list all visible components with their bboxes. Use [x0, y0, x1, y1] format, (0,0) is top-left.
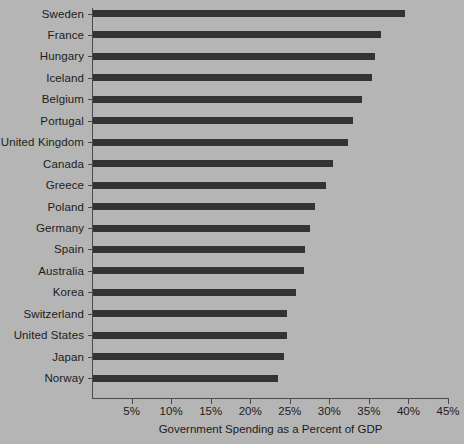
- y-axis-tick: [88, 164, 93, 165]
- x-axis-tick: [290, 399, 291, 404]
- y-axis-tick: [88, 121, 93, 122]
- y-axis-label: Germany: [0, 222, 84, 234]
- x-axis-tick-label: 20%: [230, 405, 270, 417]
- y-axis-tick: [88, 271, 93, 272]
- y-axis-tick: [88, 378, 93, 379]
- x-axis-tick: [250, 399, 251, 404]
- y-axis-line: [92, 8, 93, 399]
- y-axis-label: Poland: [0, 201, 84, 213]
- y-axis-label: Greece: [0, 179, 84, 191]
- x-axis-tick: [408, 399, 409, 404]
- y-axis-tick: [88, 185, 93, 186]
- y-axis-label: Japan: [0, 351, 84, 363]
- x-axis-tick-label: 40%: [388, 405, 428, 417]
- x-axis-tick-label: 30%: [309, 405, 349, 417]
- y-axis-tick: [88, 142, 93, 143]
- bar: [92, 117, 353, 124]
- x-axis-tick-label: 35%: [349, 405, 389, 417]
- x-axis-line: [92, 398, 449, 399]
- x-axis-tick: [448, 399, 449, 404]
- y-axis-label: Norway: [0, 372, 84, 384]
- y-axis-tick: [88, 249, 93, 250]
- y-axis-label: Sweden: [0, 8, 84, 20]
- y-axis-tick: [88, 228, 93, 229]
- y-axis-label: Korea: [0, 286, 84, 298]
- bar: [92, 353, 284, 360]
- x-axis-tick-label: 15%: [191, 405, 231, 417]
- bar: [92, 160, 333, 167]
- x-axis-tick: [132, 399, 133, 404]
- y-axis-tick: [88, 14, 93, 15]
- bar: [92, 139, 348, 146]
- y-axis-label: Australia: [0, 265, 84, 277]
- bar: [92, 53, 375, 60]
- y-axis-tick: [88, 314, 93, 315]
- x-axis-tick-label: 45%: [428, 405, 464, 417]
- x-axis-tick-label: 25%: [270, 405, 310, 417]
- y-axis-tick: [88, 99, 93, 100]
- x-axis-tick: [171, 399, 172, 404]
- bar: [92, 203, 315, 210]
- y-axis-label: United Kingdom: [0, 136, 84, 148]
- bar: [92, 332, 287, 339]
- y-axis-label: Portugal: [0, 115, 84, 127]
- x-axis-tick: [329, 399, 330, 404]
- x-axis-tick-label: 10%: [151, 405, 191, 417]
- y-axis-tick: [88, 357, 93, 358]
- bar: [92, 310, 287, 317]
- y-axis-label: Switzerland: [0, 308, 84, 320]
- y-axis-tick: [88, 56, 93, 57]
- plot-area: [92, 0, 458, 398]
- bar: [92, 31, 381, 38]
- y-axis-label: United States: [0, 329, 84, 341]
- y-axis-tick: [88, 78, 93, 79]
- bar: [92, 225, 310, 232]
- y-axis-tick: [88, 335, 93, 336]
- bar: [92, 267, 304, 274]
- y-axis-tick: [88, 207, 93, 208]
- y-axis-label: Hungary: [0, 50, 84, 62]
- y-axis-label: Spain: [0, 243, 84, 255]
- y-axis-tick: [88, 292, 93, 293]
- y-axis-label: Canada: [0, 158, 84, 170]
- bar: [92, 96, 362, 103]
- y-axis-label: Belgium: [0, 93, 84, 105]
- bar: [92, 375, 278, 382]
- bar: [92, 10, 405, 17]
- x-axis-title: Government Spending as a Percent of GDP: [92, 423, 449, 435]
- y-axis-label: France: [0, 29, 84, 41]
- y-axis-category-labels: SwedenFranceHungaryIcelandBelgiumPortuga…: [0, 0, 88, 398]
- x-axis-tick: [211, 399, 212, 404]
- y-axis-label: Iceland: [0, 72, 84, 84]
- y-axis-tick: [88, 35, 93, 36]
- x-axis-tick: [369, 399, 370, 404]
- x-axis-tick-label: 5%: [112, 405, 152, 417]
- bar: [92, 289, 296, 296]
- bar: [92, 182, 326, 189]
- bar: [92, 74, 372, 81]
- bar: [92, 246, 305, 253]
